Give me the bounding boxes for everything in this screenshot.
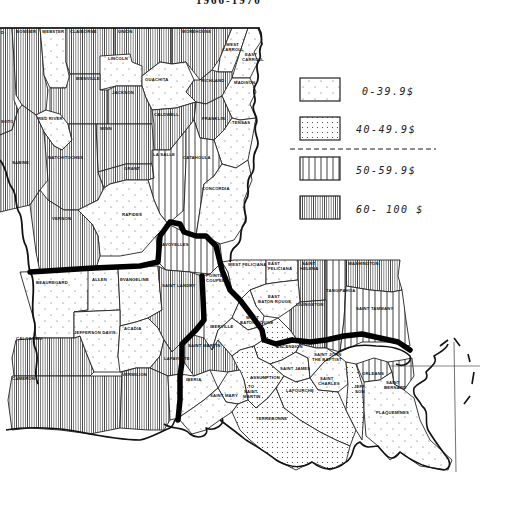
parish-calcasieu[interactable]	[12, 336, 94, 376]
label-saint-helena-2: HELENA	[300, 266, 318, 271]
label-vermilion: VERMILION	[122, 372, 147, 377]
label-jackson: JACKSON	[112, 90, 134, 95]
legend-label-40-49: 40-49.9$	[356, 124, 416, 135]
label-ouachita: OUACHITA	[145, 77, 168, 82]
label-wbr-2: BATON ROUGE	[240, 320, 273, 325]
label-calcasieu: CALCASIEU	[16, 336, 42, 341]
label-morehouse: MOREHOUSE	[182, 29, 211, 34]
label-saint-mary: SAINT MARY	[210, 393, 238, 398]
legend-label-0-39: 0-39.9$	[362, 86, 415, 97]
label-sjb-2: THE BAPTIST	[312, 357, 342, 362]
label-washington: WASHINGTON	[348, 261, 379, 266]
label-lafourche: LAFOURCHE	[286, 388, 314, 393]
parish-ouachita[interactable]	[142, 62, 196, 110]
label-webster: WEBSTER	[42, 29, 64, 34]
parishes-north	[0, 28, 262, 274]
label-rapides: RAPIDES	[122, 212, 142, 217]
parish-plaquemines[interactable]	[364, 372, 452, 470]
label-desoto-top: D	[1, 30, 4, 35]
label-saint-landry: SAINT LANDRY	[162, 283, 195, 288]
label-catahoula: CATAHOULA	[183, 155, 211, 160]
label-west-feliciana: WEST FELICIANA	[228, 262, 266, 267]
label-union: UNION	[118, 29, 133, 34]
parish-vermilion[interactable]	[120, 368, 170, 430]
label-east-feliciana-2: FELICIANA	[268, 266, 292, 271]
label-allen: ALLEN	[92, 277, 107, 282]
label-tangipahoa: TANGIPAHOA	[326, 288, 356, 293]
label-concordia: CONCORDIA	[202, 186, 230, 191]
louisiana-parish-map: D BOSSIER WEBSTER CLAIBORNE UNION MOREHO…	[0, 0, 508, 520]
label-winn: WINN	[100, 126, 112, 131]
parish-cameron[interactable]	[8, 376, 122, 434]
label-assumption: ASSUMPTION	[250, 375, 280, 380]
label-lincoln: LINCOLN	[108, 56, 128, 61]
label-saint-bernard-2: BERNARD	[384, 385, 406, 390]
label-iberville: IBERVILLE	[210, 324, 234, 329]
label-bienville: BIENVILLE	[76, 76, 100, 81]
label-evangeline: EVANGELINE	[120, 277, 149, 282]
label-madison: MADISON	[234, 80, 255, 85]
label-vernon: VERNON	[52, 216, 71, 221]
label-richland: RICHLAND	[201, 78, 224, 83]
label-jefferson-davis: JEFFERSON DAVIS	[74, 330, 116, 335]
label-caldwell: CALDWELL	[154, 112, 179, 117]
label-beauregard: BEAUREGARD	[36, 280, 68, 285]
legend-swatch-60-100	[300, 196, 340, 219]
label-cameron: CAMERON	[12, 376, 35, 381]
label-lafayette: LAFAYETTE	[164, 356, 190, 361]
label-acadia: ACADIA	[124, 326, 141, 331]
label-ascension: ASCENSION	[276, 344, 303, 349]
label-livingston: LIVINGSTON	[296, 302, 324, 307]
label-saint-martin: SAINT MARTIN	[188, 343, 220, 348]
label-iberia: IBERIA	[186, 377, 201, 382]
label-avoyelles: AVOYELLES	[162, 242, 189, 247]
label-claiborne: CLAIBORNE	[70, 29, 97, 34]
label-tensas: TENSAS	[232, 120, 250, 125]
label-east-carroll-2: CARROLL	[242, 57, 264, 62]
label-west-carroll-2: CARROLL	[222, 47, 244, 52]
label-grant: GRANT	[124, 166, 140, 171]
label-saint-james: SAINT JAMES	[280, 366, 310, 371]
label-bossier: BOSSIER	[16, 29, 36, 34]
label-plaquemines: PLAQUEMINES	[376, 410, 409, 415]
label-lasalle: LA SALLE	[153, 152, 175, 157]
legend-swatch-40-49	[300, 117, 340, 140]
label-franklin: FRANKLIN	[202, 116, 225, 121]
label-natchitoches: NATCHITOCHES	[48, 155, 83, 160]
label-saint-charles-2: CHARLES	[318, 381, 340, 386]
label-sabine: SABINE	[12, 160, 29, 165]
label-red-river: RED RIVER	[38, 116, 63, 121]
label-pointe-coupee-2: COUPEE	[206, 278, 225, 283]
legend-label-60-100: 60- 100 $	[356, 204, 424, 215]
legend-swatch-50-59	[300, 157, 340, 180]
label-terrebonne: TERREBONNE	[256, 416, 287, 421]
label-orleans: ORLEANS	[362, 371, 384, 376]
label-ebr-2: BATON ROUGE	[258, 299, 291, 304]
label-to-sm-3: MARTIN	[243, 394, 260, 399]
legend-label-50-59: 50-59.9$	[356, 165, 416, 176]
map-legend: 0-39.9$ 40-49.9$ 50-59.9$ 60- 100 $	[290, 78, 436, 219]
label-jefferson-2: SON	[355, 389, 365, 394]
meridian-line	[454, 342, 456, 472]
legend-swatch-0-39	[300, 78, 340, 101]
label-saint-tammany: SAINT TAMMANY	[356, 306, 393, 311]
label-desoto: SOTO	[1, 119, 14, 124]
